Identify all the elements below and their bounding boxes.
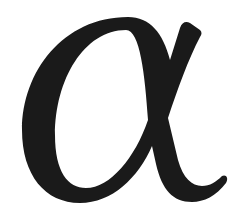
alpha-glyph-path [22,17,227,203]
alpha-icon [0,0,252,214]
alpha-glyph: α [0,0,252,214]
